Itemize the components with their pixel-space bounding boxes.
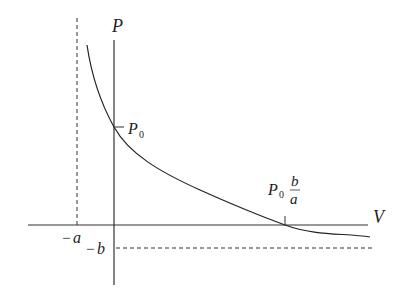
v-axis-label: V [373,207,386,227]
intercept-p-label: P [267,181,278,198]
p0-label-subscript: 0 [139,129,144,140]
neg-a-minus: − [62,230,70,246]
neg-b-label: b [97,240,105,257]
p0-label: P [127,120,138,137]
intercept-p-subscript: 0 [279,189,284,200]
fraction-denominator: a [290,191,298,207]
neg-b-minus: − [86,241,94,257]
pv-diagram: P V P 0 − a − b P 0 b a [0,0,407,297]
neg-a-label: a [73,229,81,246]
fraction-numerator: b [291,173,299,189]
pv-curve [87,45,370,237]
p-axis-label: P [111,16,123,36]
